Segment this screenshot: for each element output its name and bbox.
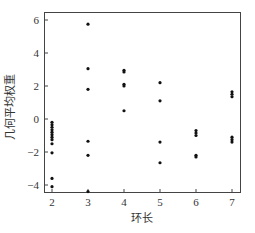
data-point: [86, 154, 89, 157]
plot-frame: [45, 13, 241, 193]
data-point: [50, 185, 53, 188]
data-point: [230, 141, 233, 144]
y-tick-label: −4: [27, 179, 39, 191]
data-point: [86, 88, 89, 91]
x-tick-label: 7: [229, 196, 235, 208]
data-point: [122, 109, 125, 112]
scatter-chart: −4−20246 234567 环长 几何平均权重: [0, 0, 255, 233]
x-tick-label: 6: [193, 196, 199, 208]
x-tick-label: 4: [121, 196, 127, 208]
data-point: [86, 23, 89, 26]
data-point: [86, 140, 89, 143]
data-point: [230, 95, 233, 98]
x-tick-label: 5: [157, 196, 163, 208]
data-point: [158, 161, 161, 164]
x-tick-label: 2: [49, 196, 55, 208]
data-point: [158, 141, 161, 144]
y-axis-title: 几何平均权重: [3, 74, 16, 140]
data-point: [194, 155, 197, 158]
data-point: [158, 99, 161, 102]
y-tick-label: 4: [34, 47, 40, 59]
x-axis-title: 环长: [131, 212, 153, 224]
data-point: [86, 190, 89, 193]
data-point: [50, 138, 53, 141]
data-points: [50, 23, 233, 194]
data-point: [122, 84, 125, 87]
data-point: [50, 142, 53, 145]
y-tick-label: 6: [34, 14, 40, 26]
data-point: [86, 67, 89, 70]
y-tick-label: 0: [34, 113, 40, 125]
data-point: [50, 177, 53, 180]
data-point: [158, 81, 161, 84]
x-axis-ticks: 234567: [49, 189, 235, 208]
data-point: [194, 134, 197, 137]
x-tick-label: 3: [85, 196, 91, 208]
data-point: [50, 151, 53, 154]
data-point: [122, 70, 125, 73]
y-tick-label: −2: [27, 146, 39, 158]
y-tick-label: 2: [34, 80, 40, 92]
